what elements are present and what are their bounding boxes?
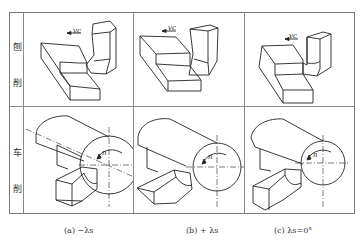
rotation-label-a: n [102,149,107,157]
rotation-label-c: n [313,151,318,159]
turning-diagram-a: n [24,107,133,214]
cutting-speed-label-c: vc [289,32,297,40]
caption-b: (b) + λs [186,226,218,235]
row-label-planing-2: 削 [10,79,24,88]
row-label-turning-1: 车 [10,149,24,158]
planing-diagram-b: vc [134,13,244,106]
cutting-speed-label-a: vc [73,27,81,35]
planing-diagram-a: vc [24,13,133,106]
turning-diagram-b: n [134,107,244,214]
caption-a: (a) −λs [64,226,93,235]
caption-c: (c) λs=0° [274,226,312,235]
rotation-label-b: n [208,153,213,161]
cutting-speed-label-b: vc [168,24,176,32]
row-label-turning-2: 削 [10,185,24,194]
planing-diagram-c: vc [245,13,355,106]
row-label-planing-1: 刨 [10,43,24,52]
turning-diagram-c: n [245,107,355,214]
figure-table: 刨 削 车 削 vc [9,12,355,214]
